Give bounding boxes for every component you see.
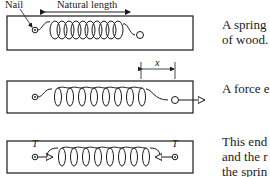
panel-stretched: [7, 62, 205, 113]
panel-natural-length: [7, 9, 193, 50]
extension-label: x: [155, 57, 160, 68]
spring-coils-1: [50, 21, 123, 39]
tension-label-left: T: [32, 138, 38, 149]
caption-panel-1: A spring of wood.: [222, 17, 268, 47]
natural-length-label: Natural length: [57, 0, 117, 10]
nail-pointer-arrow: [20, 9, 32, 27]
spring-coils-2: [55, 87, 146, 106]
tension-label-right: T: [172, 138, 178, 149]
spring-end-ring-1: [137, 32, 144, 39]
caption-panel-3: This end and the r the sprin: [222, 134, 267, 177]
spring-end-ring-2: [172, 97, 179, 104]
caption-panel-2: A force e: [222, 81, 270, 96]
nail-label: Nail: [5, 0, 23, 10]
spring-coils-3: [59, 147, 150, 166]
